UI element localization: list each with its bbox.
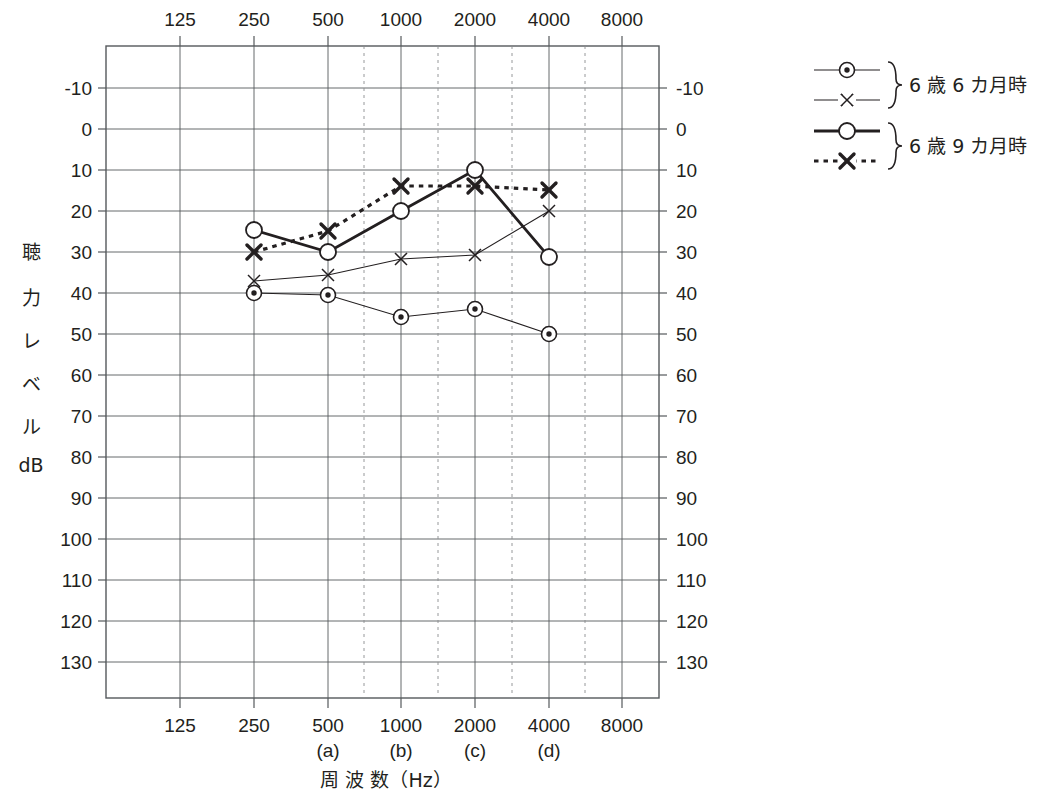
right-tick-40: 40 <box>676 283 697 304</box>
marker-circled-dot <box>247 286 262 301</box>
bottom-tick-125: 125 <box>164 715 196 736</box>
bottom-axis-ticks <box>180 698 622 708</box>
left-tick-20: 20 <box>71 201 92 222</box>
top-tick-8000: 8000 <box>601 9 643 30</box>
right-axis-labels: -10 0 10 20 30 40 50 60 70 80 90 100 110… <box>676 78 708 673</box>
marker-open-circle <box>393 203 409 219</box>
sub-label-a: (a) <box>316 740 339 761</box>
y-axis-char-0: 聴 <box>22 241 41 263</box>
audiogram-svg: 125 250 500 1000 2000 4000 8000 125 250 … <box>0 0 1045 800</box>
left-axis-ticks <box>98 88 106 662</box>
left-tick-70: 70 <box>71 406 92 427</box>
y-axis-char-2: レ <box>22 330 41 352</box>
right-tick-100: 100 <box>676 529 708 550</box>
bottom-tick-8000: 8000 <box>601 715 643 736</box>
left-tick-40: 40 <box>71 283 92 304</box>
right-tick-90: 90 <box>676 488 697 509</box>
right-tick-130: 130 <box>676 652 708 673</box>
bottom-tick-4000: 4000 <box>528 715 570 736</box>
top-tick-250: 250 <box>238 9 270 30</box>
audiogram-figure: 125 250 500 1000 2000 4000 8000 125 250 … <box>0 0 1045 800</box>
left-tick-130: 130 <box>60 652 92 673</box>
left-tick-100: 100 <box>60 529 92 550</box>
left-tick-90: 90 <box>71 488 92 509</box>
plot-frame <box>106 46 659 698</box>
marker-open-circle <box>246 222 262 238</box>
top-tick-4000: 4000 <box>528 9 570 30</box>
marker-open-circle <box>541 249 557 265</box>
top-tick-500: 500 <box>312 9 344 30</box>
y-axis-char-1: 力 <box>22 287 41 309</box>
marker-circled-dot <box>468 302 483 317</box>
right-axis-ticks <box>659 88 667 662</box>
left-tick-60: 60 <box>71 365 92 386</box>
marker-circled-dot <box>542 327 557 342</box>
legend-entry-open-circle[interactable] <box>814 123 880 139</box>
left-tick-50: 50 <box>71 324 92 345</box>
left-tick-0: 0 <box>81 119 92 140</box>
right-tick-0: 0 <box>676 119 687 140</box>
legend-group-6y9m[interactable]: 6 歳 9 カ月時 <box>814 123 1027 169</box>
x-axis-title: 周 波 数（Hz） <box>320 769 451 791</box>
legend-entry-circled-dot[interactable] <box>814 63 880 78</box>
left-tick-110: 110 <box>62 570 92 591</box>
right-tick-30: 30 <box>676 242 697 263</box>
marker-open-circle <box>320 244 336 260</box>
bottom-tick-2000: 2000 <box>454 715 496 736</box>
legend-brace-6y6m <box>888 62 902 108</box>
top-axis-labels: 125 250 500 1000 2000 4000 8000 <box>164 9 643 30</box>
legend-label-6y6m: 6 歳 6 カ月時 <box>909 74 1027 96</box>
legend-brace-6y9m <box>888 123 902 169</box>
right-tick--10: -10 <box>676 78 703 99</box>
sub-label-d: (d) <box>537 740 560 761</box>
left-tick-30: 30 <box>71 242 92 263</box>
right-tick-120: 120 <box>676 611 708 632</box>
right-tick-70: 70 <box>676 406 697 427</box>
left-tick-10: 10 <box>71 160 92 181</box>
bottom-sub-labels: (a) (b) (c) (d) <box>316 740 560 761</box>
right-tick-110: 110 <box>676 570 706 591</box>
left-tick-120: 120 <box>60 611 92 632</box>
top-tick-1000: 1000 <box>380 9 422 30</box>
top-tick-125: 125 <box>164 9 196 30</box>
marker-circled-dot <box>394 310 409 325</box>
y-axis-char-5: dB <box>18 454 43 476</box>
right-tick-20: 20 <box>676 201 697 222</box>
sub-label-b: (b) <box>389 740 412 761</box>
legend-marker-open-circle <box>839 123 855 139</box>
right-tick-10: 10 <box>676 160 697 181</box>
legend: 6 歳 6 カ月時 6 歳 9 カ月時 <box>814 62 1027 169</box>
bottom-tick-500: 500 <box>312 715 344 736</box>
top-tick-2000: 2000 <box>454 9 496 30</box>
marker-circled-dot <box>321 288 336 303</box>
legend-label-6y9m: 6 歳 9 カ月時 <box>909 135 1027 157</box>
bottom-tick-250: 250 <box>238 715 270 736</box>
bottom-axis-labels: 125 250 500 1000 2000 4000 8000 <box>164 715 643 736</box>
right-tick-60: 60 <box>676 365 697 386</box>
left-axis-labels: -10 0 10 20 30 40 50 60 70 80 90 100 110… <box>60 78 92 673</box>
bottom-tick-1000: 1000 <box>380 715 422 736</box>
legend-entry-bold-x[interactable] <box>814 153 880 169</box>
y-axis-char-4: ル <box>22 416 41 438</box>
legend-marker-circled-dot <box>840 63 855 78</box>
marker-open-circle <box>467 162 483 178</box>
left-tick--10: -10 <box>65 78 92 99</box>
y-axis-title: 聴 力 レ ベ ル dB <box>18 241 43 476</box>
left-tick-80: 80 <box>71 447 92 468</box>
legend-group-6y6m[interactable]: 6 歳 6 カ月時 <box>814 62 1027 108</box>
top-axis-ticks <box>180 36 622 46</box>
right-tick-80: 80 <box>676 447 697 468</box>
right-tick-50: 50 <box>676 324 697 345</box>
sub-label-c: (c) <box>464 740 486 761</box>
y-axis-char-3: ベ <box>22 373 41 395</box>
